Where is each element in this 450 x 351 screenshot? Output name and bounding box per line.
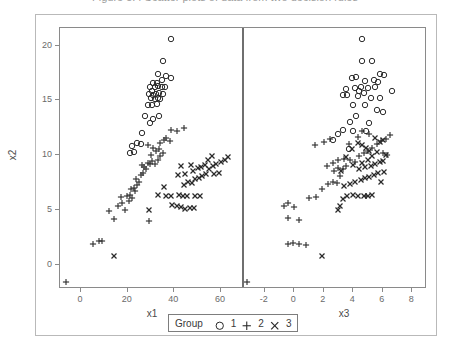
x-tick xyxy=(293,288,294,292)
data-point-group-1 xyxy=(159,57,167,65)
x-tick xyxy=(264,288,265,292)
x-tick-label: 0 xyxy=(60,294,100,304)
data-point-group-3 xyxy=(174,171,181,178)
data-point-group-3 xyxy=(372,134,379,141)
y-tick xyxy=(55,264,59,265)
data-point-group-1 xyxy=(352,74,360,82)
x-tick xyxy=(382,288,383,292)
x-tick xyxy=(323,288,324,292)
y-tick-label: 10 xyxy=(28,149,52,159)
plot-frame xyxy=(59,27,426,288)
data-point-group-3 xyxy=(373,148,380,155)
data-point-group-3 xyxy=(380,168,387,175)
data-point-group-3 xyxy=(350,161,357,168)
legend-title: Group xyxy=(175,318,203,329)
data-point-group-2 xyxy=(313,193,320,200)
data-point-group-2 xyxy=(157,153,164,160)
x-tick-label: 60 xyxy=(200,294,240,304)
data-point-group-1 xyxy=(360,89,368,97)
data-point-group-1 xyxy=(141,112,149,120)
data-point-group-3 xyxy=(336,202,343,209)
figure-title-strip: Figure 5.4 Scatter plots of data from tw… xyxy=(0,0,450,7)
data-point-group-2 xyxy=(122,206,129,213)
x-tick xyxy=(411,288,412,292)
data-point-group-3 xyxy=(181,170,188,177)
data-point-group-2 xyxy=(386,132,393,139)
circle-marker xyxy=(215,317,228,330)
data-point-group-3 xyxy=(187,161,194,168)
data-point-group-3 xyxy=(378,178,385,185)
data-point-group-2 xyxy=(285,214,292,221)
x-tick xyxy=(127,288,128,292)
data-point-group-1 xyxy=(376,94,384,102)
legend-label: 3 xyxy=(286,318,292,329)
data-point-group-1 xyxy=(372,83,380,91)
data-point-group-2 xyxy=(295,216,302,223)
data-point-group-1 xyxy=(126,149,134,157)
data-point-group-3 xyxy=(338,167,345,174)
data-point-group-2 xyxy=(333,179,340,186)
data-point-group-2 xyxy=(62,279,69,286)
x-tick xyxy=(173,288,174,292)
data-point-group-3 xyxy=(178,162,185,169)
x-tick xyxy=(80,288,81,292)
data-point-group-2 xyxy=(166,137,173,144)
data-point-group-3 xyxy=(215,169,222,176)
data-point-group-2 xyxy=(145,217,152,224)
data-point-group-1 xyxy=(146,120,154,128)
y-tick xyxy=(55,154,59,155)
data-point-group-1 xyxy=(369,57,377,65)
data-point-group-2 xyxy=(305,194,312,201)
x-tick-label: 8 xyxy=(391,294,431,304)
data-point-group-2 xyxy=(290,203,297,210)
data-point-group-1 xyxy=(358,35,366,43)
data-point-group-2 xyxy=(180,124,187,131)
data-point-group-3 xyxy=(208,153,215,160)
data-point-group-2 xyxy=(302,241,309,248)
data-point-group-2 xyxy=(144,142,151,149)
data-point-group-3 xyxy=(224,154,231,161)
data-point-group-3 xyxy=(110,252,117,259)
scatter-panel-x1 xyxy=(60,28,242,287)
data-point-group-2 xyxy=(129,194,136,201)
data-point-group-3 xyxy=(154,191,161,198)
panel-divider xyxy=(242,28,244,287)
data-point-group-3 xyxy=(342,154,349,161)
data-point-group-1 xyxy=(153,100,161,108)
legend-entry-1: 1 xyxy=(215,317,237,330)
y-tick xyxy=(55,209,59,210)
data-point-group-3 xyxy=(183,192,190,199)
data-point-group-1 xyxy=(379,109,387,117)
y-tick xyxy=(55,45,59,46)
data-point-group-3 xyxy=(160,183,167,190)
data-point-group-2 xyxy=(131,188,138,195)
legend-label: 1 xyxy=(231,318,237,329)
data-point-group-1 xyxy=(361,101,369,109)
data-point-group-1 xyxy=(167,35,175,43)
y-tick-label: 0 xyxy=(28,259,52,269)
figure-title: Figure 5.4 Scatter plots of data from tw… xyxy=(0,0,450,3)
data-point-group-2 xyxy=(295,240,302,247)
data-point-group-3 xyxy=(369,191,376,198)
y-axis-label: x2 xyxy=(7,150,18,161)
x-tick xyxy=(220,288,221,292)
data-point-group-1 xyxy=(335,131,343,139)
x-tick xyxy=(352,288,353,292)
data-point-group-2 xyxy=(311,142,318,149)
data-point-group-1 xyxy=(167,75,175,83)
data-point-group-3 xyxy=(348,145,355,152)
data-point-group-1 xyxy=(344,91,352,99)
data-point-group-3 xyxy=(319,252,326,259)
y-tick-label: 20 xyxy=(28,40,52,50)
data-point-group-2 xyxy=(136,178,143,185)
data-point-group-3 xyxy=(167,192,174,199)
scatter-panel-x3 xyxy=(244,28,426,287)
data-point-group-3 xyxy=(145,206,152,213)
data-point-group-1 xyxy=(388,87,396,95)
legend-label: 2 xyxy=(258,318,264,329)
x-tick-label: 20 xyxy=(107,294,147,304)
data-point-group-3 xyxy=(382,152,389,159)
x-tick-label: 40 xyxy=(153,294,193,304)
data-point-group-2 xyxy=(244,279,251,286)
y-tick-label: 15 xyxy=(28,94,52,104)
